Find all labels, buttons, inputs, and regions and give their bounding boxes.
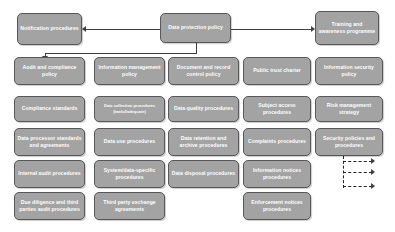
node-data-processor-standards-agreements[interactable]: Data processor standards and agreements — [14, 128, 85, 156]
node-third-party-exchange-agreements[interactable]: Third party exchange agreements — [94, 192, 165, 220]
node-system-data-specific-procedures[interactable]: System/data-specific procedures — [94, 160, 165, 188]
node-internal-audit-procedures[interactable]: Internal audit procedures — [14, 160, 85, 188]
node-data-quality-procedures[interactable]: Data quality procedures — [168, 96, 239, 122]
node-label: Enforcement notices procedures — [246, 199, 308, 213]
node-label: Third party exchange agreements — [97, 199, 162, 213]
arrowhead-to-notification — [82, 26, 86, 32]
node-subject-access-procedures[interactable]: Subject access procedures — [243, 96, 311, 122]
node-enforcement-notices-procedures[interactable]: Enforcement notices procedures — [243, 192, 311, 220]
node-label: Data collection procedures (lawful/adequ… — [97, 103, 162, 114]
node-notification-procedures[interactable]: Notification procedures — [17, 13, 82, 45]
node-label: Risk management strategy — [318, 102, 380, 116]
connector-policy-to-notification — [85, 29, 160, 30]
dashed-arrowhead-2 — [371, 169, 375, 175]
dashed-connector-1 — [343, 161, 372, 162]
node-label: Public trust charter — [246, 67, 308, 74]
connector-policy-to-training — [231, 29, 313, 30]
dashed-arrowhead-1 — [371, 158, 375, 164]
node-label: Data processor standards and agreements — [17, 135, 82, 149]
node-audit-compliance-policy[interactable]: Audit and compliance policy — [14, 57, 85, 85]
node-label: Complaints procedures — [246, 138, 308, 145]
node-information-management-policy[interactable]: Information management policy — [94, 57, 165, 85]
node-label: Information notices procedures — [246, 167, 308, 181]
dashed-arrowhead-3 — [371, 183, 375, 189]
node-label: Audit and compliance policy — [17, 64, 82, 78]
node-label: Data quality procedures — [171, 105, 236, 112]
node-label: Training and awareness programme — [318, 21, 376, 35]
node-label: Subject access procedures — [246, 102, 308, 116]
node-label: System/data-specific procedures — [97, 167, 162, 181]
node-label: Due diligence and third parties audit pr… — [17, 199, 82, 213]
node-label: Internal audit procedures — [17, 170, 82, 177]
node-label: Compliance standards — [17, 105, 82, 112]
node-security-policies-procedures[interactable]: Security policies and procedures — [315, 128, 383, 156]
node-data-collection-procedures[interactable]: Data collection procedures (lawful/adequ… — [94, 96, 165, 122]
node-label: Data disposal procedures — [171, 170, 236, 177]
node-label: Data use procedures — [97, 138, 162, 145]
node-label: Data retention and archive procedures — [171, 135, 236, 149]
diagram-canvas: Notification procedures Data protection … — [0, 0, 395, 232]
node-label: Security policies and procedures — [318, 135, 380, 149]
dashed-connector-2 — [343, 172, 372, 173]
node-data-disposal-procedures[interactable]: Data disposal procedures — [168, 160, 239, 188]
node-compliance-standards[interactable]: Compliance standards — [14, 96, 85, 122]
node-label: Notification procedures — [20, 25, 79, 32]
node-label: Data protection policy — [163, 24, 228, 31]
node-label: Information management policy — [97, 64, 162, 78]
node-due-diligence-third-parties-audit[interactable]: Due diligence and third parties audit pr… — [14, 192, 85, 220]
connector-policy-down-left — [45, 53, 197, 54]
node-label: Information security policy — [318, 64, 380, 78]
node-information-notices-procedures[interactable]: Information notices procedures — [243, 160, 311, 188]
node-data-use-procedures[interactable]: Data use procedures — [94, 128, 165, 156]
node-information-security-policy[interactable]: Information security policy — [315, 57, 383, 85]
node-complaints-procedures[interactable]: Complaints procedures — [243, 128, 311, 156]
node-data-retention-archive-procedures[interactable]: Data retention and archive procedures — [168, 128, 239, 156]
node-training-awareness-programme[interactable]: Training and awareness programme — [315, 11, 379, 45]
node-label: Document and record control policy — [171, 64, 236, 78]
node-data-protection-policy[interactable]: Data protection policy — [160, 13, 231, 43]
node-document-record-control-policy[interactable]: Document and record control policy — [168, 57, 239, 85]
dashed-connector-3 — [343, 186, 372, 187]
node-public-trust-charter[interactable]: Public trust charter — [243, 57, 311, 85]
node-risk-management-strategy[interactable]: Risk management strategy — [315, 96, 383, 122]
